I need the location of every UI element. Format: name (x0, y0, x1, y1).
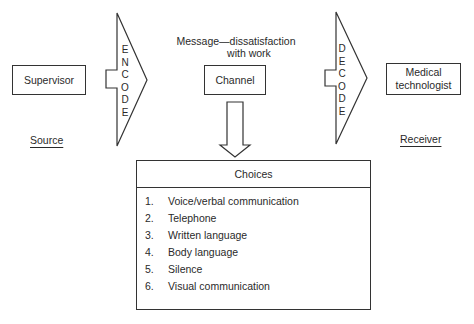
item-number: 1. (145, 193, 168, 210)
item-text: Body language (168, 244, 238, 261)
item-number: 3. (145, 227, 168, 244)
source-box: Supervisor (12, 65, 86, 95)
decode-letter: C (338, 68, 345, 81)
item-text: Voice/verbal communication (168, 193, 299, 210)
message-label: Message—dissatisfaction with work (166, 35, 306, 59)
item-text: Written language (168, 227, 247, 244)
choices-box: Choices 1.Voice/verbal communication 2.T… (136, 160, 371, 310)
encode-letter: O (121, 82, 129, 95)
encode-letter: E (122, 44, 129, 57)
receiver-box-line2: technologist (395, 79, 451, 92)
channel-box: Channel (204, 65, 266, 95)
encode-letters: E N C O D E (118, 44, 132, 119)
receiver-label: Receiver (400, 133, 441, 145)
item-number: 4. (145, 244, 168, 261)
encode-letter: N (121, 57, 128, 70)
message-line1: Message—dissatisfaction (166, 35, 306, 47)
decode-letter: E (339, 56, 346, 69)
list-item: 5.Silence (145, 261, 370, 278)
item-number: 6. (145, 278, 168, 295)
source-box-label: Supervisor (24, 74, 74, 87)
message-line2: with work (166, 47, 306, 59)
decode-letter: D (338, 43, 345, 56)
list-item: 1.Voice/verbal communication (145, 193, 370, 210)
channel-label: Channel (215, 74, 254, 87)
encode-letter: D (121, 94, 128, 107)
encode-letter: E (122, 107, 129, 120)
encode-letter: C (121, 69, 128, 82)
list-item: 3.Written language (145, 227, 370, 244)
down-arrow (220, 102, 250, 157)
decode-letters: D E C O D E (335, 43, 349, 118)
decode-letter: O (338, 81, 346, 94)
choices-list: 1.Voice/verbal communication 2.Telephone… (137, 188, 370, 295)
decode-letter: E (339, 106, 346, 119)
source-label: Source (30, 134, 63, 146)
item-number: 5. (145, 261, 168, 278)
item-text: Visual communication (168, 278, 270, 295)
list-item: 2.Telephone (145, 210, 370, 227)
item-number: 2. (145, 210, 168, 227)
list-item: 6.Visual communication (145, 278, 370, 295)
receiver-box: Medical technologist (386, 63, 461, 95)
list-item: 4.Body language (145, 244, 370, 261)
choices-title: Choices (137, 161, 370, 188)
decode-letter: D (338, 93, 345, 106)
item-text: Telephone (168, 210, 216, 227)
item-text: Silence (168, 261, 202, 278)
receiver-box-line1: Medical (405, 66, 441, 79)
